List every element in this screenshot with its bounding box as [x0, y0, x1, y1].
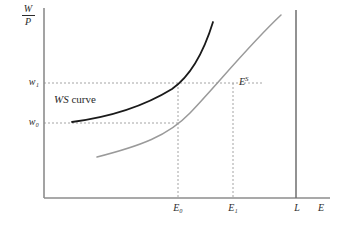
labour-supply-curve [97, 15, 281, 157]
economics-diagram: W P w₁ w₀ E₀ E₁ L E WS curve ES [0, 0, 338, 230]
x-axis-label: E [308, 203, 334, 213]
y-tick-label-w0: w₀ [13, 117, 39, 127]
ws-curve-label-roman: curve [69, 93, 96, 105]
ws-curve-label-italic: WS [54, 93, 69, 105]
ws-curve-label: WS curve [54, 94, 96, 105]
y-axis-label-numerator: W [17, 4, 39, 15]
labour-supply-curve-label: ES [239, 76, 249, 87]
labour-supply-curve-label-superscript: S [245, 75, 249, 83]
x-tick-label-L: L [284, 203, 310, 213]
y-axis-label-denominator: P [17, 16, 39, 27]
x-tick-label-e0: E₀ [165, 203, 191, 213]
diagram-canvas [0, 0, 338, 230]
x-tick-label-e1: E₁ [220, 203, 246, 213]
y-tick-label-w1: w₁ [13, 77, 39, 87]
y-axis-label: W P [17, 4, 39, 27]
ws-curve [72, 22, 213, 122]
